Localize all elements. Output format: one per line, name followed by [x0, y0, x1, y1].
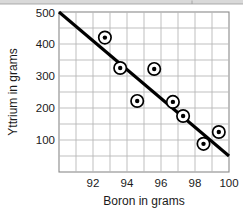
- data-point: [197, 138, 209, 150]
- data-point: [148, 63, 160, 75]
- y-axis-tick-labels: 100 200 300 400 500: [36, 7, 55, 146]
- y-tick-label: 200: [36, 102, 55, 114]
- x-tick-label: 92: [87, 177, 100, 189]
- y-axis-title: Yttrium in grams: [6, 48, 20, 135]
- y-tick-label: 500: [36, 7, 55, 19]
- x-tick-label: 98: [189, 177, 202, 189]
- data-point: [177, 110, 189, 122]
- data-point: [131, 95, 143, 107]
- chart-canvas: 92 94 96 98 100 100 200 300 400 500 Boro…: [0, 0, 243, 213]
- y-tick-label: 300: [36, 70, 55, 82]
- x-tick-label: 100: [219, 177, 238, 189]
- data-point: [167, 96, 179, 108]
- plot-area: [59, 12, 229, 172]
- y-tick-label: 100: [36, 134, 55, 146]
- data-point: [114, 62, 126, 74]
- x-tick-label: 96: [155, 177, 168, 189]
- x-tick-label: 94: [121, 177, 134, 189]
- data-point: [213, 126, 225, 138]
- y-tick-label: 400: [36, 38, 55, 50]
- scatter-plot-figure: 92 94 96 98 100 100 200 300 400 500 Boro…: [0, 0, 243, 213]
- top-edge-strip: [0, 0, 243, 4]
- x-axis-tick-labels: 92 94 96 98 100: [87, 177, 239, 189]
- data-point: [99, 31, 111, 43]
- x-axis-title: Boron in grams: [103, 194, 184, 208]
